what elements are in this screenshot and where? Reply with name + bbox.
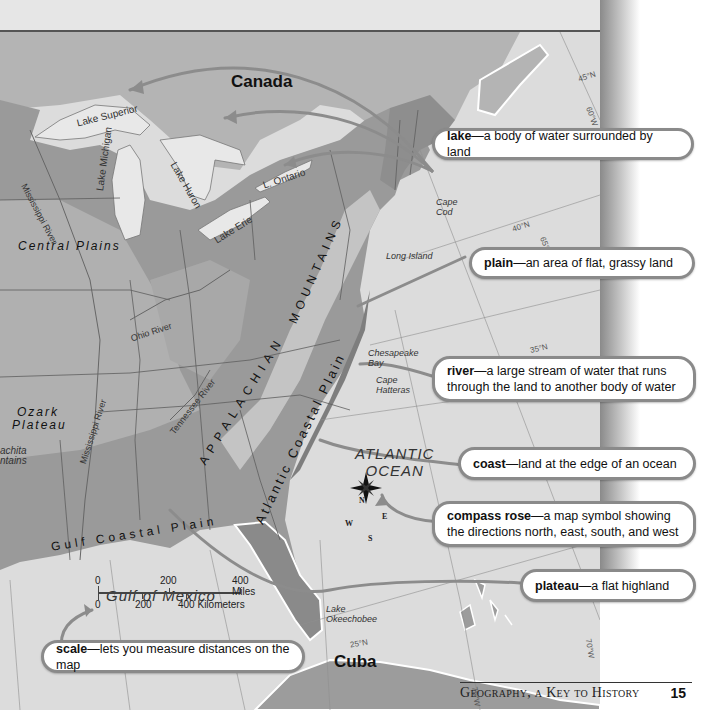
callout-plateau: plateau—a flat highland — [520, 569, 696, 602]
compass-north: N — [359, 496, 365, 505]
label-cuba: Cuba — [334, 652, 377, 672]
label-ouachita-mountains: achitantains — [0, 446, 27, 466]
label-chesapeake-bay: ChesapeakeBay — [368, 348, 419, 368]
callout-coast: coast—land at the edge of an ocean — [458, 447, 696, 480]
callout-compass-rose: compass rose—a map symbol showing the di… — [432, 501, 696, 547]
label-cape-cod: CapeCod — [436, 197, 458, 217]
page-footer: Geography, a Key to History 15 — [460, 682, 692, 701]
scale-km-400: 400 Kilometers — [178, 599, 245, 610]
label-ozark-plateau: OzarkPlateau — [12, 406, 67, 432]
label-canada: Canada — [231, 72, 292, 92]
scale-km-200: 200 — [135, 599, 152, 610]
callout-lake: lake—a body of water surrounded by land — [432, 128, 694, 160]
scale-miles-0: 0 — [95, 575, 101, 586]
compass-west: W — [345, 519, 353, 528]
label-lake-okeechobee: LakeOkeechobee — [326, 604, 377, 624]
page-top-margin — [0, 0, 600, 32]
scale-miles-200: 200 — [160, 575, 177, 586]
footer-title: Geography, a Key to History — [460, 685, 639, 701]
compass-south: S — [368, 534, 372, 543]
compass-east: E — [382, 512, 387, 521]
page-margin — [640, 0, 708, 710]
callout-plain: plain—an area of flat, grassy land — [469, 247, 695, 279]
label-cape-hatteras: CapeHatteras — [376, 375, 410, 395]
label-long-island: Long Island — [386, 251, 433, 261]
callout-scale: scale—lets you measure distances on the … — [41, 640, 305, 673]
label-central-plains: Central Plains — [18, 239, 121, 253]
scale-km-0: 0 — [95, 599, 101, 610]
textbook-page: Canada Cuba Lake Superior Lake Michigan … — [0, 0, 708, 710]
scale-miles-400: 400 Miles — [232, 575, 258, 597]
label-atlantic-ocean: ATLANTICOCEAN — [355, 445, 434, 479]
map-scale-bar: 0 200 400 Miles 0 200 400 Kilometers — [98, 583, 258, 613]
page-number: 15 — [670, 685, 686, 701]
callout-river: river—a large stream of water that runs … — [432, 356, 696, 402]
